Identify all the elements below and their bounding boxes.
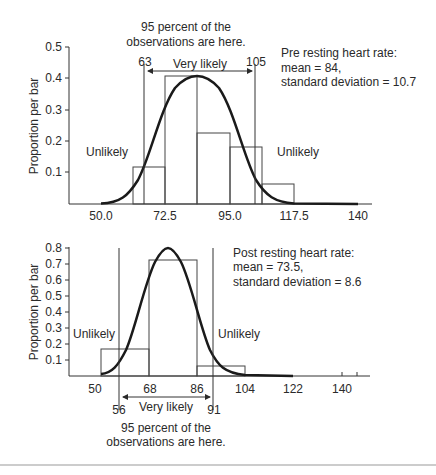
bottom-stats-title: Post resting heart rate: — [233, 246, 354, 260]
top-chart: 95 percent of the observations are here.… — [27, 20, 416, 223]
bottom-chart: Proportion per bar 0.1 0.2 0.3 0.4 0.5 0… — [27, 241, 370, 449]
top-unlikely-right-label: Unlikely — [277, 145, 319, 159]
bottom-y-tick-label: 0.4 — [45, 305, 62, 319]
bottom-stats-sd: standard deviation = 8.6 — [233, 275, 362, 289]
top-stats-mean: mean = 84, — [281, 61, 341, 75]
top-x-tick-label: 95.0 — [218, 209, 242, 223]
bottom-y-ticks: 0.1 0.2 0.3 0.4 0.5 0.6 0.7 0.8 — [45, 241, 69, 367]
top-stats-sd: standard deviation = 10.7 — [281, 75, 416, 89]
top-x-tick-label: 50.0 — [89, 209, 113, 223]
top-interval-low-label: 63 — [138, 55, 152, 69]
bottom-x-tick-label: 86 — [190, 382, 204, 396]
bottom-x-tick-label: 140 — [332, 382, 352, 396]
top-y-tick-label: 0.4 — [45, 71, 62, 85]
top-histogram-bars — [133, 76, 294, 204]
bottom-annotation-line1: 95 percent of the — [121, 421, 211, 435]
top-unlikely-left-label: Unlikely — [86, 145, 128, 159]
bottom-x-tick-label: 104 — [235, 382, 255, 396]
bottom-y-tick-label: 0.3 — [45, 321, 62, 335]
top-annotation-line1: 95 percent of the — [141, 20, 231, 34]
bottom-y-tick-label: 0.8 — [45, 241, 62, 255]
top-y-axis-label: Proportion per bar — [27, 78, 41, 175]
bottom-y-axis-label: Proportion per bar — [27, 264, 41, 361]
bottom-unlikely-left-label: Unlikely — [73, 327, 115, 341]
top-x-tick-label: 117.5 — [279, 209, 308, 223]
top-y-tick-label: 0.5 — [45, 40, 62, 54]
bottom-y-tick-label: 0.7 — [45, 257, 62, 271]
top-x-tick-label: 72.5 — [153, 209, 177, 223]
bottom-x-tick-label: 68 — [143, 382, 157, 396]
top-stats-title: Pre resting heart rate: — [281, 46, 397, 60]
bottom-y-tick-label: 0.5 — [45, 289, 62, 303]
bottom-interval-low-label: 56 — [112, 403, 126, 417]
bottom-stats-mean: mean = 73.5, — [233, 260, 303, 274]
bottom-very-likely-label: Very likely — [139, 400, 193, 414]
bottom-y-tick-label: 0.2 — [45, 337, 62, 351]
bottom-x-tick-label: 122 — [283, 382, 303, 396]
top-very-likely-label: Very likely — [173, 57, 227, 71]
top-x-tick-label: 140 — [348, 209, 368, 223]
top-y-ticks: 0.1 0.2 0.3 0.4 0.5 — [45, 40, 69, 179]
top-y-tick-label: 0.2 — [45, 134, 62, 148]
top-x-ticks: 50.0 72.5 95.0 117.5 140 — [89, 209, 368, 223]
top-annotation-line2: observations are here. — [126, 35, 245, 49]
bottom-x-tick-label: 50 — [88, 382, 102, 396]
bar — [197, 133, 230, 204]
top-y-tick-label: 0.1 — [45, 165, 62, 179]
bar — [149, 260, 197, 376]
bottom-interval-high-label: 91 — [207, 403, 221, 417]
bottom-y-tick-label: 0.6 — [45, 273, 62, 287]
top-interval-high-label: 105 — [246, 55, 266, 69]
bar — [133, 167, 165, 204]
bottom-annotation-line2: observations are here. — [106, 435, 225, 449]
bottom-y-tick-label: 0.1 — [45, 353, 62, 367]
top-y-tick-label: 0.3 — [45, 103, 62, 117]
figure: 95 percent of the observations are here.… — [0, 0, 436, 475]
bottom-unlikely-right-label: Unlikely — [218, 327, 260, 341]
